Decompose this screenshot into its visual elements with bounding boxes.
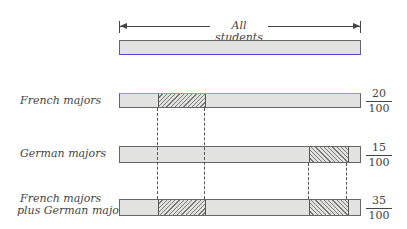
arrowhead-left-icon <box>120 23 127 29</box>
dimension-right-tick <box>360 21 361 33</box>
german-fraction: 15 100 <box>366 142 392 169</box>
french-fraction: 20 100 <box>366 88 392 115</box>
combined-fraction: 35 100 <box>366 195 392 222</box>
german-hatched-segment <box>309 147 349 162</box>
german-majors-label: German majors <box>20 148 106 160</box>
combined-french-segment <box>158 200 206 215</box>
combined-german-segment <box>309 200 349 215</box>
all-students-bar <box>119 40 361 55</box>
combined-bar <box>119 199 361 216</box>
dimension-line-right <box>268 26 360 27</box>
guide-french-left <box>157 108 158 199</box>
guide-french-right <box>204 108 205 199</box>
combined-label-line2: plus German majors <box>17 205 130 217</box>
french-majors-bar <box>119 93 361 108</box>
guide-german-right <box>346 163 347 199</box>
french-majors-label: French majors <box>20 95 101 107</box>
german-majors-bar <box>119 146 361 163</box>
arrowhead-right-icon <box>353 23 360 29</box>
french-hatched-segment <box>158 94 206 107</box>
guide-german-left <box>308 163 309 199</box>
dimension-line-left <box>120 26 210 27</box>
